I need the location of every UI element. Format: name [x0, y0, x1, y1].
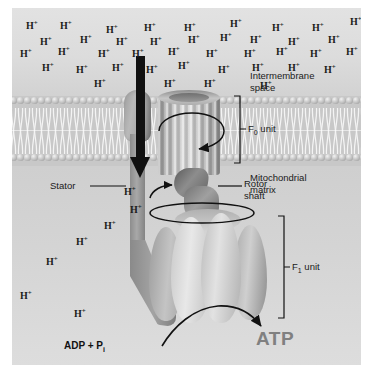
proton-ion-intermembrane: H+	[218, 64, 230, 75]
proton-ion-intermembrane: H+	[144, 22, 156, 33]
f1-lobe	[201, 213, 241, 323]
proton-ion-matrix: H+	[20, 290, 32, 301]
f0-barrel-body	[158, 97, 220, 175]
proton-ion-intermembrane: H+	[106, 24, 118, 35]
proton-ion-intermembrane: H+	[150, 36, 162, 47]
stator-label: Stator	[50, 180, 75, 192]
f0-suffix: unit	[258, 123, 276, 134]
proton-ion-intermembrane: H+	[220, 32, 232, 43]
f1-unit-label: F1 unit	[292, 261, 320, 275]
atp-synthase-figure: Intermembrane space Mitochondrial matrix…	[12, 8, 361, 365]
rotor-shaft-label: Rotor shaft	[244, 178, 267, 201]
proton-ion-intermembrane: H+	[252, 62, 264, 73]
proton-ion-intermembrane: H+	[40, 36, 52, 47]
proton-ion-intermembrane: H+	[188, 34, 200, 45]
proton-ion-intermembrane: H+	[324, 64, 336, 75]
proton-ion-intermembrane: H+	[76, 64, 88, 75]
proton-ion-intermembrane: H+	[288, 36, 300, 47]
proton-ion-matrix: H+	[74, 308, 86, 319]
proton-ion-intermembrane: H+	[206, 48, 218, 59]
proton-ion-intermembrane: H+	[204, 78, 216, 89]
proton-ion-intermembrane: H+	[310, 48, 322, 59]
proton-ion-intermembrane: H+	[26, 20, 38, 31]
proton-ion-matrix: H+	[104, 220, 116, 231]
f1-unit-head	[149, 213, 267, 328]
proton-ion-intermembrane: H+	[312, 22, 324, 33]
proton-ion-intermembrane: H+	[250, 34, 262, 45]
proton-ion-intermembrane: H+	[58, 46, 70, 57]
proton-ion-intermembrane: H+	[116, 36, 128, 47]
proton-ion-intermembrane: H+	[146, 64, 158, 75]
proton-ion-intermembrane: H+	[168, 46, 180, 57]
proton-ion-intermembrane: H+	[164, 78, 176, 89]
proton-ion-matrix: H+	[46, 256, 58, 267]
proton-ion-intermembrane: H+	[230, 18, 242, 29]
proton-ion-intermembrane: H+	[98, 48, 110, 59]
proton-ion-intermembrane: H+	[328, 34, 340, 45]
proton-ion-intermembrane: H+	[60, 20, 72, 31]
adp-label: ADP + Pi	[64, 340, 105, 353]
proton-ion-intermembrane: H+	[272, 22, 284, 33]
proton-ion-intermembrane: H+	[112, 62, 124, 73]
proton-ion-matrix: H+	[76, 236, 88, 247]
proton-ion-intermembrane: H+	[132, 48, 144, 59]
f1-suffix: unit	[302, 261, 320, 272]
proton-ion-intermembrane: H+	[184, 22, 196, 33]
adp-subscript: i	[103, 346, 105, 353]
proton-ion-intermembrane: H+	[276, 46, 288, 57]
proton-ion-intermembrane: H+	[94, 78, 106, 89]
proton-ion-intermembrane: H+	[178, 60, 190, 71]
proton-ion-intermembrane: H+	[350, 16, 361, 27]
atp-label: ATP	[256, 328, 294, 350]
proton-ion-intermembrane: H+	[244, 48, 256, 59]
proton-ion-intermembrane: H+	[346, 46, 358, 57]
proton-ion-intermembrane: H+	[260, 80, 272, 91]
proton-ion-matrix: H+	[130, 204, 142, 215]
f0-barrel-bore	[169, 93, 209, 102]
proton-ion-intermembrane: H+	[42, 62, 54, 73]
f0-unit-label: F0 unit	[248, 123, 276, 137]
proton-ion-intermembrane: H+	[80, 34, 92, 45]
proton-ion-intermembrane: H+	[288, 62, 300, 73]
adp-text: ADP + P	[64, 340, 103, 351]
proton-ion-channel: H+	[124, 186, 136, 197]
proton-ion-intermembrane: H+	[20, 48, 32, 59]
f0-unit-barrel	[158, 90, 220, 175]
